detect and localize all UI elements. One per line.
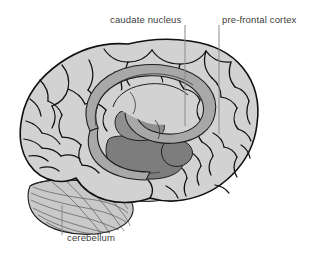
thalamus-lobe [161,140,192,166]
label-caudate-nucleus: caudate nucleus [110,14,181,25]
brain-diagram-figure: caudate nucleus pre-frontal cortex cereb… [0,0,317,264]
label-cerebellum: cerebellum [67,232,115,243]
label-pre-frontal-cortex: pre-frontal cortex [222,14,297,25]
brain-illustration [0,0,317,264]
